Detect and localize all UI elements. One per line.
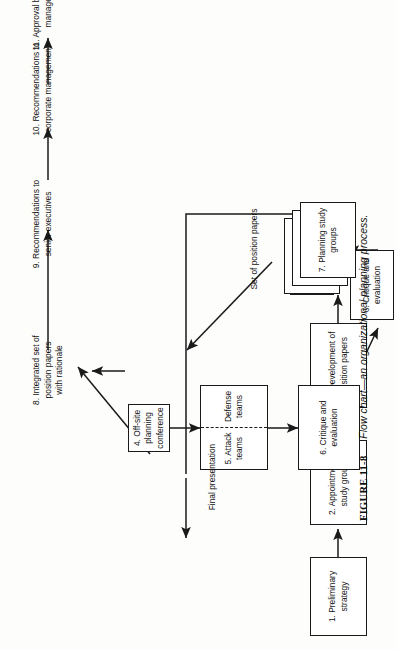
node-12-publication-of-strategic-objectives: 11. Approval by corporate management bbox=[20, 0, 54, 58]
figure-caption-text: Flow chart—an organizational planning pr… bbox=[357, 215, 369, 439]
node-12-label: 11. Approval by corporate management bbox=[31, 0, 52, 50]
node-4-label: 4. Off-site planning conference bbox=[132, 407, 166, 448]
annotation-final-presentation-label: Final presentation bbox=[207, 444, 217, 511]
annotation-final-presentation: Final presentation bbox=[196, 422, 219, 532]
node-9-recommendations-senior-executives: 8. Integrated set of position papers wit… bbox=[20, 308, 65, 432]
annotation-set-of-position-papers-label: Set of position papers bbox=[249, 209, 259, 290]
node-10-label: 9. Recommendations to senior executives bbox=[31, 180, 52, 268]
node-4-offsite-planning-conference[interactable]: 4. Off-site planning conference bbox=[128, 404, 170, 452]
node-5a-label: 5. Attack teams bbox=[223, 430, 246, 467]
annotation-set-of-position-papers: Set of position papers bbox=[238, 184, 261, 314]
node-5b-label: Defense teams bbox=[223, 388, 246, 425]
node-9-label: 8. Integrated set of position papers wit… bbox=[31, 335, 64, 405]
figure-caption: FIGURE 11-8 Flow chart—an organizational… bbox=[330, 0, 396, 650]
figure-number: FIGURE 11-8 bbox=[358, 456, 369, 521]
node-10-recommendations-corporate-management: 9. Recommendations to senior executives bbox=[20, 160, 54, 288]
